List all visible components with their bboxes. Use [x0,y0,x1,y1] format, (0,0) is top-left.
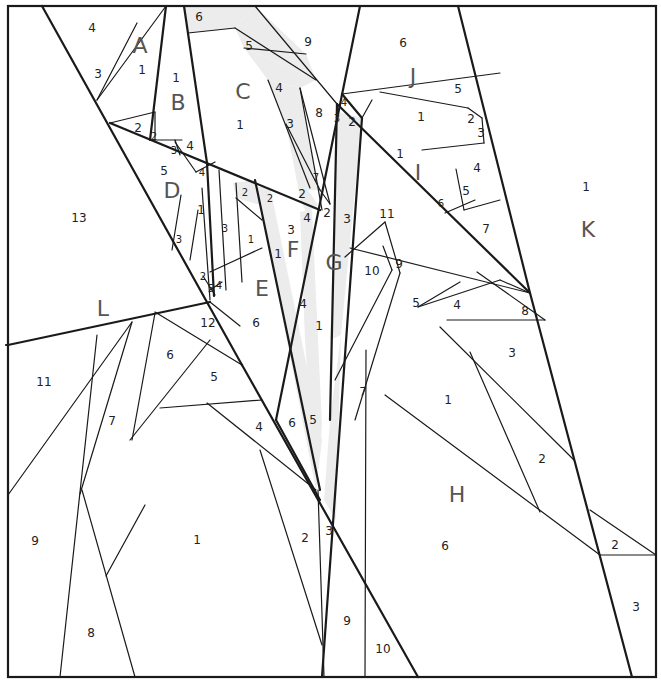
piece-number: 4 [299,297,307,311]
piece-number: 4 [275,81,283,95]
section-label-f: F [287,237,300,262]
piece-number: 5 [309,413,317,427]
piece-number: 3 [334,113,340,124]
piece-number: 3 [343,212,351,226]
piece-number: 6 [441,539,449,553]
background [0,0,661,690]
piece-number: 2 [348,115,356,129]
piece-number: 1 [193,533,201,547]
section-label-b: B [170,90,185,115]
piece-number: 3 [632,600,640,614]
piece-number: 5 [412,296,420,310]
piece-number: 6 [195,10,203,24]
piece-number: 8 [521,304,529,318]
piece-number: 12 [200,316,215,330]
piece-number: 2 [611,538,619,552]
piece-number: 1 [172,71,180,85]
piece-number: 1 [274,247,282,261]
piece-number: 2 [134,121,142,135]
piece-number: 5 [462,184,470,198]
piece-number: 1 [315,319,323,333]
piece-number: 5 [210,370,218,384]
piece-number: 5 [245,39,253,53]
piece-number: 7 [482,222,490,236]
piece-number: 6 [252,316,260,330]
piece-number: 9 [31,534,39,548]
piece-number: 2 [200,271,206,282]
piece-number: 10 [364,264,379,278]
piece-number: 1 [248,234,254,245]
piece-number: 1 [396,147,404,161]
piece-number: 1 [417,110,425,124]
section-label-j: J [408,64,417,89]
piece-number: 4 [473,161,481,175]
piece-number: 10 [375,642,390,656]
piece-number: 2 [298,187,306,201]
piece-number: 7 [313,172,319,183]
piece-number: 2 [467,112,475,126]
piece-number: 5 [160,164,168,178]
section-label-k: K [581,217,596,242]
piece-number: 3 [176,234,182,245]
piece-number: 2 [538,452,546,466]
piece-number: 1 [236,118,244,132]
piece-number: 6 [288,416,296,430]
piece-number: 1 [444,393,452,407]
section-label-i: I [415,160,422,185]
piece-number: 3 [287,223,295,237]
section-label-d: D [164,178,181,203]
piece-number: 9 [343,614,351,628]
piece-number: 2 [301,531,309,545]
piece-number: 4 [303,211,311,225]
piece-number: 3 [222,223,228,234]
piece-number: 8 [87,626,95,640]
piece-number: 3 [477,126,485,140]
piece-number: 2 [242,187,248,198]
piece-number: 3 [325,524,333,538]
section-label-a: A [132,33,147,58]
piece-number: 6 [438,198,444,209]
piece-number: 4 [255,420,263,434]
piece-number: 2 [151,131,157,142]
piece-number: 4 [216,280,222,291]
piece-number: 4 [88,21,96,35]
piece-number: 4 [199,167,205,178]
piece-number: 9 [304,35,312,49]
piece-number: 3 [286,117,294,131]
piece-number: 4 [341,97,347,108]
piece-number: 9 [395,257,403,271]
piece-number: 6 [166,348,174,362]
piece-number: 2 [267,193,273,204]
piece-number: 6 [399,36,407,50]
piece-number: 3 [171,145,177,156]
piece-number: 1 [138,63,146,77]
piece-number: 4 [186,139,194,153]
piece-number: 7 [108,414,116,428]
piece-number: 5 [208,283,214,294]
piece-number: 7 [359,385,367,399]
section-label-h: H [449,482,466,507]
piece-number: 1 [582,180,590,194]
piece-number: 5 [454,82,462,96]
piece-number: 3 [508,346,516,360]
section-label-l: L [97,296,110,321]
section-label-e: E [255,276,269,301]
piece-number: 8 [315,106,323,120]
piece-number: 3 [94,67,102,81]
section-label-c: C [235,79,250,104]
piece-number: 11 [379,207,394,221]
piece-number: 4 [453,298,461,312]
piece-number: 2 [323,206,331,220]
piece-number: 11 [36,375,51,389]
piece-number: 13 [71,211,86,225]
piece-number: 1 [197,203,205,217]
section-label-g: G [325,250,342,275]
paper-piecing-diagram: 4311223465941387242343265123145611711354… [0,0,661,690]
